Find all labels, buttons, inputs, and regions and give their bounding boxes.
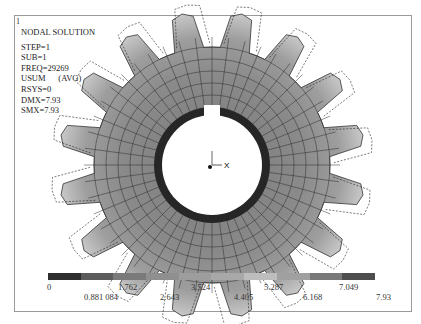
legend-swatch-0 xyxy=(48,273,81,280)
info-panel: NODAL SOLUTION STEP=1 SUB=1 FREQ=29269 U… xyxy=(21,27,95,116)
legend-label-4: 7.049 xyxy=(339,282,358,292)
legend-swatch-7 xyxy=(277,273,310,280)
legend-swatch-5 xyxy=(211,273,244,280)
legend-label-3: 5.287 xyxy=(264,282,283,292)
legend-label-2: 3.524 xyxy=(191,282,210,292)
legend-label-6: 2.643 xyxy=(160,292,179,302)
info-freq: FREQ=29269 xyxy=(21,63,95,74)
color-legend-bar xyxy=(48,273,375,280)
info-sub: SUB=1 xyxy=(21,52,95,63)
legend-swatch-3 xyxy=(146,273,179,280)
legend-swatch-4 xyxy=(179,273,212,280)
info-usum: USUM (AVG) xyxy=(21,73,95,84)
legend-swatch-2 xyxy=(113,273,146,280)
legend-label-9: 7.93 xyxy=(376,292,391,302)
legend-label-7: 4.405 xyxy=(234,292,253,302)
legend-label-8: 6.168 xyxy=(303,292,322,302)
legend-label-1: 1.762 xyxy=(118,282,137,292)
info-title: NODAL SOLUTION xyxy=(21,27,95,38)
svg-text:X: X xyxy=(224,161,230,170)
info-step: STEP=1 xyxy=(21,42,95,53)
info-dmx: DMX=7.93 xyxy=(21,95,95,106)
info-rsys: RSYS=0 xyxy=(21,84,95,95)
legend-swatch-9 xyxy=(342,273,375,280)
legend-swatch-6 xyxy=(244,273,277,280)
legend-label-0: 0 xyxy=(47,282,51,292)
legend-label-5: 0.881 084 xyxy=(84,292,118,302)
legend-swatch-8 xyxy=(310,273,343,280)
legend-swatch-1 xyxy=(81,273,114,280)
keyway xyxy=(204,105,220,119)
info-smx: SMX=7.93 xyxy=(21,105,95,116)
